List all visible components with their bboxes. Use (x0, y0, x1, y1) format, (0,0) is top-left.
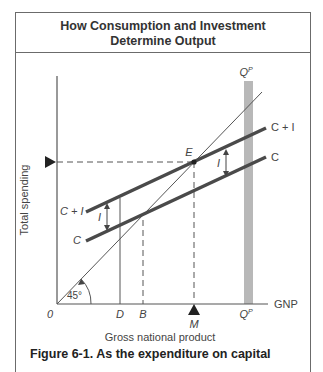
right-investment-label: I (217, 157, 220, 169)
equilibrium-point (191, 159, 196, 164)
c-left-label: C (73, 234, 81, 246)
origin-label: 0 (47, 308, 54, 320)
potential-output-label: QP (239, 66, 253, 78)
equilibrium-label: E (185, 146, 193, 158)
c-right-label: C (271, 151, 279, 163)
tick-m-label: M (189, 318, 199, 330)
tick-d-label: D (116, 308, 124, 320)
gnp-label: GNP (274, 298, 298, 310)
x-axis-label: Gross national product (105, 331, 216, 343)
angle-label: 45° (67, 290, 82, 301)
c-plus-i-right-label: C + I (271, 121, 295, 133)
spending-marker-icon (45, 156, 56, 168)
tick-b-label: B (139, 308, 146, 320)
c-plus-i-left-label: C + I (60, 205, 84, 217)
output-marker-icon (188, 304, 200, 315)
figure-caption: Figure 6-1. As the expenditure on capita… (30, 347, 271, 361)
arrow-up-icon (223, 149, 229, 155)
potential-output-bar (244, 81, 253, 304)
45-degree-line (57, 92, 262, 304)
left-investment-label: I (98, 211, 101, 223)
y-axis-label: Total spending (18, 165, 30, 236)
tick-qp-label: QP (239, 308, 253, 320)
